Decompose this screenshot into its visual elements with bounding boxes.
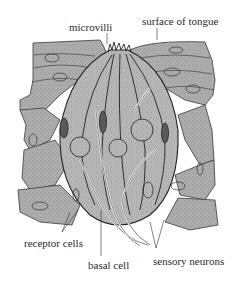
label-receptor-cells: receptor cells <box>24 238 83 249</box>
label-surface-of-tongue: surface of tongue <box>142 16 218 27</box>
label-basal-cell: basal cell <box>88 260 129 271</box>
label-sensory-neurons: sensory neurons <box>153 256 224 267</box>
label-microvilli: microvilli <box>69 22 112 33</box>
